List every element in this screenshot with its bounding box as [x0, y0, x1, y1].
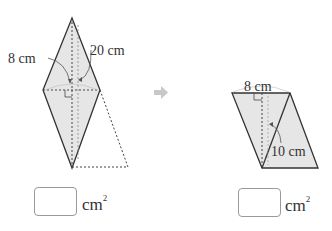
right-unit-label: cm2: [285, 197, 310, 214]
left-rhombus: [43, 18, 128, 168]
right-arrow-icon: [154, 86, 168, 99]
left-answer-input[interactable]: [34, 187, 77, 216]
right-answer-input[interactable]: [238, 188, 281, 217]
left-long-diagonal-label: 20 cm: [90, 44, 125, 58]
left-unit-label: cm2: [82, 196, 107, 213]
left-short-diagonal-label: 8 cm: [8, 52, 36, 66]
right-height-label: 10 cm: [271, 145, 306, 159]
right-base-label: 8 cm: [244, 80, 272, 94]
